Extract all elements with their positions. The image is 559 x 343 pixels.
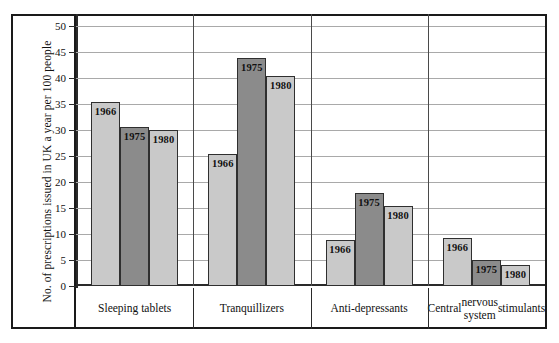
category-label: Sleeping tablets — [76, 288, 193, 329]
group-separator — [428, 14, 429, 286]
bar: 1975 — [355, 193, 384, 286]
bar-year-label: 1966 — [92, 106, 119, 117]
y-axis-tick-label: 40 — [38, 72, 66, 84]
bar-chart: No. of prescriptions issued in UK a year… — [0, 0, 559, 343]
y-axis-tick — [69, 286, 76, 287]
y-axis-tick — [69, 208, 76, 209]
category-label: Centralnervous systemstimulants — [428, 288, 545, 329]
bar-year-label: 1966 — [209, 158, 236, 169]
y-axis-tick-label: 0 — [38, 280, 66, 292]
y-axis-tick-label: 10 — [38, 228, 66, 240]
bar-year-label: 1980 — [267, 80, 294, 91]
bar: 1966 — [208, 154, 237, 286]
group-separator — [193, 14, 194, 286]
y-axis-tick-label: 15 — [38, 202, 66, 214]
bar-year-label: 1966 — [327, 244, 354, 255]
bar: 1975 — [472, 260, 501, 286]
y-axis-tick-label: 20 — [38, 176, 66, 188]
y-axis-tick — [69, 182, 76, 183]
category-separator — [428, 288, 429, 329]
bar: 1980 — [384, 206, 413, 286]
bar: 1975 — [120, 127, 149, 286]
y-axis-tick-label: 25 — [38, 150, 66, 162]
bar: 1980 — [266, 76, 295, 286]
bar: 1980 — [501, 265, 530, 286]
bar: 1980 — [149, 130, 178, 286]
y-axis-tick — [69, 26, 76, 27]
group-separator — [311, 14, 312, 286]
category-label: Tranquillizers — [193, 288, 310, 329]
bar-year-label: 1975 — [356, 197, 383, 208]
plot-area: 0510152025303540455019661975198019661975… — [76, 16, 545, 286]
y-axis-tick-label: 45 — [38, 46, 66, 58]
y-axis-tick — [69, 104, 76, 105]
bar-year-label: 1975 — [121, 131, 148, 142]
category-label: Anti-depressants — [311, 288, 428, 329]
y-axis-tick — [69, 234, 76, 235]
y-axis-tick — [69, 52, 76, 53]
bar-year-label: 1980 — [502, 269, 529, 280]
y-axis-tick — [69, 130, 76, 131]
bar: 1966 — [443, 238, 472, 286]
bar-year-label: 1966 — [444, 242, 471, 253]
category-separator — [193, 288, 194, 329]
y-axis-tick — [69, 260, 76, 261]
y-axis-tick — [69, 156, 76, 157]
y-axis-tick-label: 30 — [38, 124, 66, 136]
bar-year-label: 1980 — [385, 210, 412, 221]
y-axis-tick — [69, 78, 76, 79]
category-label-band: Sleeping tabletsTranquillizersAnti-depre… — [76, 288, 545, 329]
y-axis-tick-label: 35 — [38, 98, 66, 110]
bar: 1975 — [237, 58, 266, 286]
y-axis-line — [76, 14, 78, 288]
bar-year-label: 1975 — [238, 62, 265, 73]
y-axis-tick-label: 50 — [38, 20, 66, 32]
bar-year-label: 1975 — [473, 264, 500, 275]
bar-year-label: 1980 — [150, 134, 177, 145]
bar: 1966 — [91, 102, 120, 286]
bar: 1966 — [326, 240, 355, 286]
y-axis-tick-label: 5 — [38, 254, 66, 266]
category-separator — [311, 288, 312, 329]
